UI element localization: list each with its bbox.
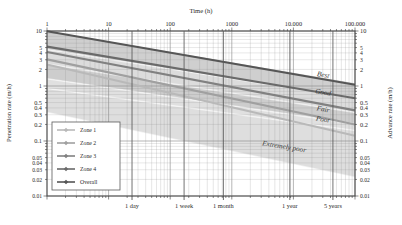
y2-tick-label: 0.3 — [360, 111, 368, 118]
y-tick-label: 10 — [36, 27, 42, 34]
x-tick-label: 10.000 — [285, 20, 302, 27]
time-marker-label: 1 day — [125, 202, 140, 209]
y-tick-label: 4 — [39, 50, 42, 56]
y-tick-label: 0.1 — [34, 137, 42, 144]
y-tick-label: 0.04 — [32, 160, 42, 166]
x-tick-label: 1000 — [226, 20, 239, 27]
y2-tick-label: 0.04 — [360, 160, 370, 166]
x-axis-title: Time (h) — [189, 7, 212, 15]
time-marker-label: 5 years — [324, 202, 343, 209]
penetration-advance-rate-chart: 110100100010.000100.000 10543210.50.40.3… — [0, 0, 402, 225]
y-tick-label: 0.01 — [32, 193, 42, 199]
legend-item-label: Zone 3 — [80, 153, 96, 159]
y-tick-label: 2 — [39, 66, 42, 73]
y-tick-label: 0.03 — [32, 167, 42, 173]
y2-tick-label: 2 — [360, 66, 363, 73]
y2-tick-label: 0.01 — [360, 193, 370, 199]
x-tick-label: 1 — [45, 20, 48, 27]
y-tick-label: 0.3 — [34, 111, 42, 118]
y2-tick-label: 4 — [360, 50, 363, 56]
y-tick-label: 0.02 — [32, 177, 42, 183]
y-tick-label: 1 — [39, 82, 42, 89]
x-tick-label: 100 — [165, 20, 174, 27]
y2-tick-label: 10 — [360, 27, 366, 34]
legend-item-label: Overall — [80, 179, 98, 185]
time-marker-label: 1 year — [282, 202, 298, 209]
x-tick-label: 10 — [105, 20, 111, 27]
time-marker-label: 1 month — [213, 202, 235, 209]
time-marker-label: 1 week — [175, 202, 194, 209]
legend-item-label: Zone 4 — [80, 166, 96, 172]
y2-tick-label: 0.2 — [360, 121, 368, 128]
legend-item-label: Zone 2 — [80, 140, 96, 146]
y-tick-label: 3 — [39, 57, 42, 63]
x-tick-label: 100.000 — [345, 20, 365, 27]
chart-figure: 110100100010.000100.000 10543210.50.40.3… — [0, 0, 402, 225]
y-axis-title: Penetration rate (m/h) — [5, 84, 13, 142]
y2-tick-label: 0.03 — [360, 167, 370, 173]
y-tick-label: 0.2 — [34, 121, 42, 128]
y2-tick-label: 1 — [360, 82, 363, 89]
y2-tick-label: 0.02 — [360, 177, 370, 183]
chart-legend[interactable]: Zone 1Zone 2Zone 3Zone 4Overall — [52, 122, 120, 190]
y2-axis-title: Advance rate (m/h) — [386, 87, 394, 138]
y2-tick-label: 0.1 — [360, 137, 368, 144]
y2-tick-label: 3 — [360, 57, 363, 63]
legend-item-label: Zone 1 — [80, 127, 96, 133]
